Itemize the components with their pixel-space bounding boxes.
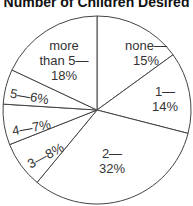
label-2: 2— 32% [92, 146, 132, 176]
label-none: none— 15% [120, 38, 172, 68]
label-more-than-5: more than 5— 18% [34, 38, 94, 83]
label-1: 1— 14% [145, 84, 185, 114]
